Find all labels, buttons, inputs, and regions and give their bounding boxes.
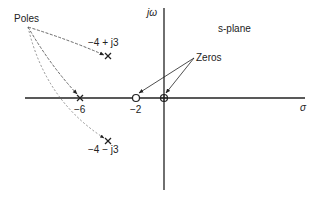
pole-label-lower: −4 − j3 bbox=[88, 144, 119, 155]
tick-label-minus-six: −6 bbox=[74, 104, 86, 115]
tick-label-minus-two: −2 bbox=[130, 104, 142, 115]
real-axis-label: σ bbox=[300, 102, 307, 113]
pole-label-upper: −4 + j3 bbox=[88, 37, 119, 48]
pole-arrow-middle bbox=[28, 27, 77, 94]
poles-label: Poles bbox=[14, 13, 39, 24]
zero-arrow-minus-two bbox=[139, 58, 194, 93]
zero-marker-origin bbox=[161, 95, 168, 102]
s-plane-diagram: jω σ s-plane Poles −4 + j3 −4 − j3 −6 −2… bbox=[0, 0, 320, 199]
zeros-label: Zeros bbox=[196, 52, 222, 63]
plane-title: s-plane bbox=[218, 23, 251, 34]
pole-marker-upper bbox=[105, 53, 111, 59]
imaginary-axis-label: jω bbox=[145, 7, 157, 18]
zero-marker-minus-two bbox=[133, 95, 140, 102]
zero-arrow-origin bbox=[166, 58, 194, 93]
